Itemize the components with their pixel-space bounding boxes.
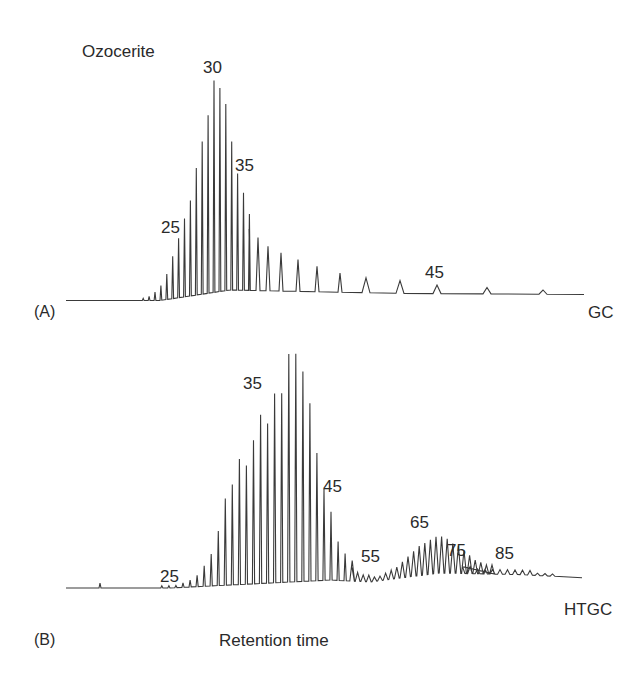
chromatogram-figure — [0, 0, 642, 681]
peak-label-b-75: 75 — [447, 542, 466, 559]
peak-label-b-55: 55 — [361, 548, 380, 565]
peak-label-a-45: 45 — [425, 264, 444, 281]
peak-label-b-45: 45 — [323, 478, 342, 495]
gc-trace-panel-a — [66, 80, 584, 300]
peak-label-b-85: 85 — [495, 545, 514, 562]
x-axis-label: Retention time — [219, 632, 329, 649]
peak-label-b-65: 65 — [410, 514, 429, 531]
peak-label-a-35: 35 — [235, 157, 254, 174]
peak-label-a-30: 30 — [203, 59, 222, 76]
method-label-htgc: HTGC — [564, 601, 612, 618]
panel-label-b: (B) — [34, 632, 55, 648]
peak-label-b-25: 25 — [160, 568, 179, 585]
peak-label-a-25: 25 — [161, 219, 180, 236]
sample-title: Ozocerite — [82, 43, 155, 60]
panel-label-a: (A) — [34, 304, 55, 320]
method-label-gc: GC — [588, 304, 614, 321]
peak-label-b-35: 35 — [243, 375, 262, 392]
